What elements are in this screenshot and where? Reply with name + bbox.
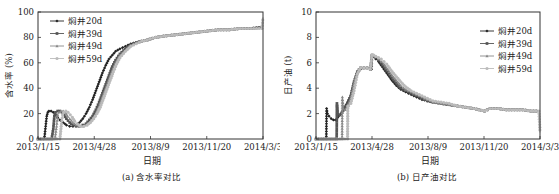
x-tick-label: 2013/1/15 <box>16 142 60 152</box>
data-point <box>252 27 255 30</box>
data-point <box>236 27 239 30</box>
legend-item: 焖井59d <box>50 54 103 64</box>
data-point <box>184 32 187 35</box>
data-point <box>456 104 459 107</box>
data-point <box>162 35 165 38</box>
data-point <box>336 105 339 108</box>
data-point <box>521 108 524 111</box>
y-tick-label: 6 <box>307 58 312 68</box>
data-point <box>352 89 355 92</box>
data-point <box>121 46 124 49</box>
data-point <box>73 120 76 123</box>
data-point <box>203 30 206 33</box>
legend-label: 焖井49d <box>498 51 533 61</box>
data-point <box>45 117 48 120</box>
legend-item: 焖井39d <box>480 39 533 49</box>
data-point <box>341 135 344 138</box>
data-point <box>241 27 244 30</box>
data-point <box>52 125 55 128</box>
data-point <box>497 107 500 110</box>
data-point <box>439 101 442 104</box>
data-point <box>423 95 426 98</box>
data-point <box>325 109 328 112</box>
data-point <box>418 93 421 96</box>
data-point <box>148 37 151 40</box>
y-tick-label: 10 <box>301 7 312 17</box>
data-point <box>370 56 373 59</box>
data-point <box>255 27 258 30</box>
data-point <box>200 30 203 33</box>
data-point <box>336 102 339 105</box>
data-point <box>233 28 236 31</box>
data-point <box>208 29 211 32</box>
data-point <box>132 43 135 46</box>
data-point <box>54 135 57 138</box>
data-point <box>55 122 58 125</box>
chart-panel-daily-oil: 02468102013/1/152013/4/282013/8/92013/11… <box>280 0 559 194</box>
data-point <box>165 34 168 37</box>
data-point <box>214 28 217 31</box>
data-point <box>469 106 472 109</box>
y-tick-label: 80 <box>23 32 34 42</box>
data-point <box>61 116 64 119</box>
data-point <box>442 101 445 104</box>
data-point <box>335 117 338 120</box>
data-point <box>486 42 489 45</box>
data-point <box>173 33 176 36</box>
data-point <box>181 32 184 35</box>
data-point <box>192 31 195 34</box>
data-point <box>399 87 402 90</box>
data-point <box>198 30 201 33</box>
data-point <box>82 125 85 128</box>
data-point <box>60 119 63 122</box>
data-point <box>195 31 198 34</box>
legend-label: 焖井20d <box>498 26 533 36</box>
x-tick-label: 2013/11/20 <box>182 142 231 152</box>
data-point <box>336 110 339 113</box>
data-point <box>51 135 54 138</box>
data-point <box>347 104 350 107</box>
x-tick-label: 2013/8/9 <box>131 142 169 152</box>
data-point <box>499 107 502 110</box>
data-point <box>249 27 252 30</box>
legend-label: 焖井59d <box>498 64 533 74</box>
data-point <box>410 89 413 92</box>
data-point <box>55 19 58 22</box>
x-axis-label: 日期 <box>143 154 161 167</box>
data-point <box>354 84 357 87</box>
data-point <box>478 108 481 111</box>
data-point <box>43 130 46 133</box>
data-point <box>434 100 437 103</box>
data-point <box>445 101 448 104</box>
data-point <box>143 39 146 42</box>
data-point <box>55 127 58 130</box>
legend: 焖井20d焖井39d焖井49d焖井59d <box>480 26 533 74</box>
data-point <box>475 108 478 111</box>
data-point <box>176 33 179 36</box>
legend-label: 焖井39d <box>498 39 533 49</box>
legend-item: 焖井39d <box>50 29 103 39</box>
data-point <box>335 130 338 133</box>
data-point <box>359 66 362 69</box>
data-point <box>353 86 356 89</box>
data-point <box>355 78 358 81</box>
data-point <box>68 125 71 128</box>
y-tick-label: 40 <box>23 83 34 93</box>
data-point <box>52 122 55 125</box>
data-point <box>341 116 344 119</box>
legend: 焖井20d焖井39d焖井49d焖井59d <box>50 16 103 64</box>
data-point <box>485 29 488 32</box>
data-point <box>355 75 358 78</box>
data-point <box>238 27 241 30</box>
data-point <box>51 133 54 136</box>
data-point <box>54 132 57 135</box>
data-point <box>66 111 69 114</box>
data-point <box>464 106 467 109</box>
data-point <box>55 57 58 60</box>
data-point <box>44 122 47 125</box>
x-tick-label: 2014/3/3 <box>521 142 559 152</box>
data-point <box>335 115 338 118</box>
data-point <box>157 35 160 38</box>
data-point <box>225 28 228 31</box>
chart-panel-water-cut: 0204060801002013/1/152013/4/282013/8/920… <box>0 0 280 194</box>
